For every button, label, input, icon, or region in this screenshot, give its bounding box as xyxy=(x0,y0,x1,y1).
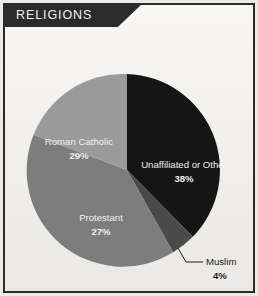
slice-value-roman-catholic: 29% xyxy=(69,150,89,161)
pie-chart-svg: Unaffiliated or Other 38% Roman Catholic… xyxy=(0,0,258,296)
slice-value-protestant: 27% xyxy=(91,226,111,237)
slice-label-unaffiliated-or-other: Unaffiliated or Other xyxy=(141,159,227,170)
slice-label-roman-catholic: Roman Catholic xyxy=(45,136,113,147)
page-title: RELIGIONS xyxy=(3,8,92,22)
slice-label-protestant: Protestant xyxy=(79,212,123,223)
religions-pie-chart-figure: Unaffiliated or Other 38% Roman Catholic… xyxy=(0,0,258,296)
slice-value-unaffiliated-or-other: 38% xyxy=(174,173,194,184)
slice-label-muslim: Muslim xyxy=(206,256,236,267)
chart-plot-area: Unaffiliated or Other 38% Roman Catholic… xyxy=(0,0,258,296)
muslim-leader-line xyxy=(178,248,203,262)
slice-value-muslim: 4% xyxy=(213,270,227,281)
